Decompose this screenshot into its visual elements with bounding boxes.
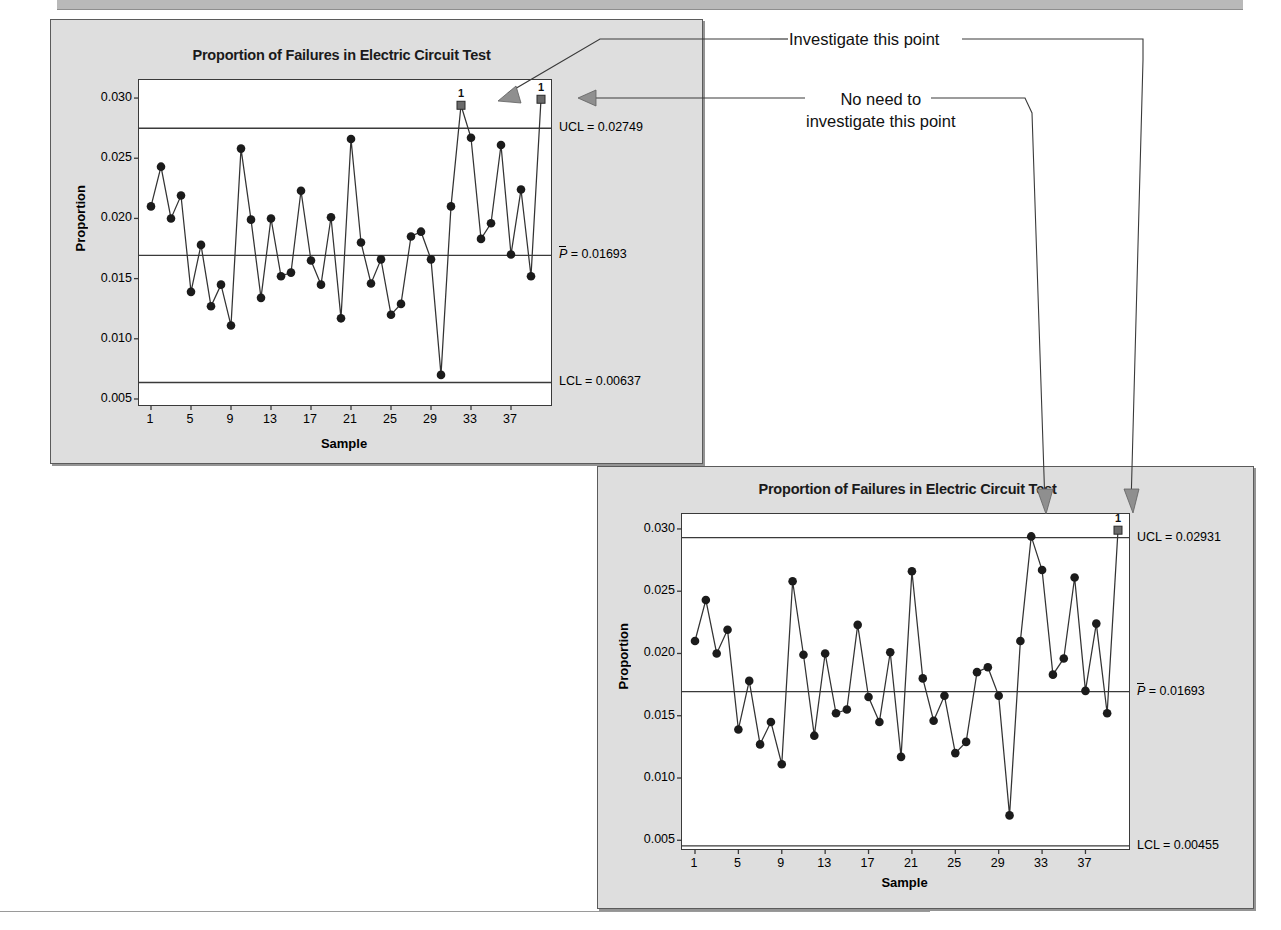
chart-title-top: Proportion of Failures in Electric Circu… <box>16 47 667 63</box>
data-point <box>387 310 396 319</box>
data-point <box>940 692 949 701</box>
plot-area-bottom: 1 <box>681 513 1130 850</box>
data-point <box>267 214 276 223</box>
y-tick-label: 0.025 <box>74 150 132 164</box>
x-tick-label: 13 <box>809 856 839 870</box>
x-tick-label: 9 <box>766 856 796 870</box>
center-line-label: P = 0.01693 <box>1137 684 1205 698</box>
data-point <box>691 637 700 646</box>
y-tick-label: 0.030 <box>74 90 132 104</box>
plot-area-top: 11 <box>138 79 552 406</box>
annotation-investigate: Investigate this point <box>789 28 939 50</box>
out-of-control-marker <box>1114 526 1122 534</box>
x-tick-label: 29 <box>415 412 445 426</box>
y-tick-label: 0.010 <box>74 331 132 345</box>
data-point <box>517 185 526 194</box>
data-point <box>886 648 895 657</box>
data-point <box>1092 619 1101 628</box>
x-tick-label: 25 <box>375 412 405 426</box>
data-point <box>407 232 416 241</box>
y-tick-label: 0.015 <box>74 271 132 285</box>
annotation-no-need-line1: No need to <box>806 88 956 110</box>
data-point <box>507 250 516 259</box>
data-point <box>417 227 426 236</box>
data-point <box>821 649 830 658</box>
data-point <box>1005 811 1014 820</box>
data-point <box>277 272 286 281</box>
data-point <box>810 731 819 740</box>
ucl-label: UCL = 0.02931 <box>1137 530 1221 544</box>
x-axis-label-top: Sample <box>138 436 550 451</box>
out-of-control-marker <box>537 95 545 103</box>
data-point <box>327 213 336 222</box>
data-point <box>377 255 386 264</box>
data-point <box>527 272 536 281</box>
data-point <box>177 191 186 200</box>
data-point <box>984 663 993 672</box>
chart-title-bottom: Proportion of Failures in Electric Circu… <box>580 481 1235 497</box>
data-point <box>832 709 841 718</box>
data-point <box>237 144 246 153</box>
data-point <box>799 650 808 659</box>
data-point <box>1103 709 1112 718</box>
data-point <box>908 567 917 576</box>
out-of-control-label: 1 <box>458 87 464 99</box>
footer-rule <box>0 911 930 912</box>
data-point <box>767 718 776 727</box>
data-point <box>734 725 743 734</box>
data-point <box>437 371 446 380</box>
data-point <box>227 321 236 330</box>
top-gray-banner <box>57 0 1243 10</box>
data-point <box>487 219 496 228</box>
data-point <box>247 215 256 224</box>
data-point <box>287 268 296 277</box>
data-point <box>357 238 366 247</box>
x-tick-label: 9 <box>215 412 245 426</box>
data-point <box>217 280 226 289</box>
data-point <box>875 718 884 727</box>
y-tick-label: 0.005 <box>617 832 675 846</box>
data-point <box>147 202 156 211</box>
p-bar-symbol: P <box>1137 684 1145 698</box>
out-of-control-label: 1 <box>1115 512 1121 524</box>
p-bar-symbol: P <box>559 247 567 261</box>
ucl-label: UCL = 0.02749 <box>559 120 643 134</box>
x-axis-label-bottom: Sample <box>681 875 1128 890</box>
out-of-control-marker <box>457 101 465 109</box>
data-point <box>951 749 960 758</box>
data-point <box>918 674 927 683</box>
x-tick-label: 17 <box>295 412 325 426</box>
x-tick-label: 21 <box>896 856 926 870</box>
x-tick-label: 37 <box>495 412 525 426</box>
data-point <box>397 300 406 309</box>
data-point <box>853 621 862 630</box>
y-tick-label: 0.020 <box>74 210 132 224</box>
data-point <box>1059 654 1068 663</box>
data-point <box>257 294 266 303</box>
data-point <box>1049 670 1058 679</box>
data-point <box>788 577 797 586</box>
data-point <box>897 753 906 762</box>
data-point <box>1070 573 1079 582</box>
data-point <box>447 202 456 211</box>
x-tick-label: 13 <box>255 412 285 426</box>
data-point <box>427 255 436 264</box>
out-of-control-label: 1 <box>538 81 544 93</box>
x-tick-label: 5 <box>175 412 205 426</box>
y-tick-label: 0.015 <box>617 708 675 722</box>
data-point <box>197 241 206 250</box>
page-canvas: Proportion of Failures in Electric Circu… <box>0 0 1281 930</box>
lcl-label: LCL = 0.00455 <box>1137 838 1219 852</box>
y-tick-label: 0.025 <box>617 583 675 597</box>
data-point <box>843 705 852 714</box>
data-point <box>367 279 376 288</box>
data-point <box>1016 637 1025 646</box>
x-tick-label: 25 <box>939 856 969 870</box>
x-tick-label: 5 <box>722 856 752 870</box>
data-point <box>207 302 216 311</box>
x-tick-label: 1 <box>679 856 709 870</box>
x-tick-label: 37 <box>1069 856 1099 870</box>
chart-panel-top: Proportion of Failures in Electric Circu… <box>50 19 703 464</box>
data-point <box>702 596 711 605</box>
data-point <box>477 235 486 244</box>
